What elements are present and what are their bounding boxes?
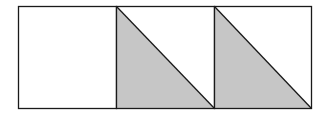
- squares-diagram: [0, 0, 323, 120]
- square-1: [19, 7, 117, 109]
